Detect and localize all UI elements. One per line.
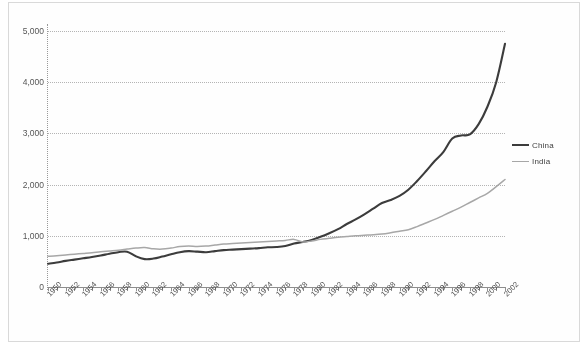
y-axis-tick-label: 0 [0, 282, 44, 292]
y-axis-tick-label: 1,000 [0, 231, 44, 241]
series-line-india [48, 179, 505, 256]
y-axis-tick-label: 5,000 [0, 26, 44, 36]
legend-item-china: China [512, 137, 582, 153]
chart-legend: China India [512, 137, 582, 169]
legend-label-india: India [532, 157, 550, 166]
line-chart: 01,0002,0003,0004,0005,000 1950195219541… [0, 0, 588, 356]
y-axis-tick-label: 2,000 [0, 180, 44, 190]
series-lines [48, 31, 505, 287]
plot-area [48, 31, 505, 287]
legend-item-india: India [512, 153, 582, 169]
legend-swatch-india-icon [512, 161, 529, 162]
legend-swatch-china-icon [512, 144, 529, 146]
y-axis-tick-label: 3,000 [0, 128, 44, 138]
legend-label-china: China [532, 141, 554, 150]
series-line-china [48, 44, 505, 264]
y-axis-tick-label: 4,000 [0, 77, 44, 87]
